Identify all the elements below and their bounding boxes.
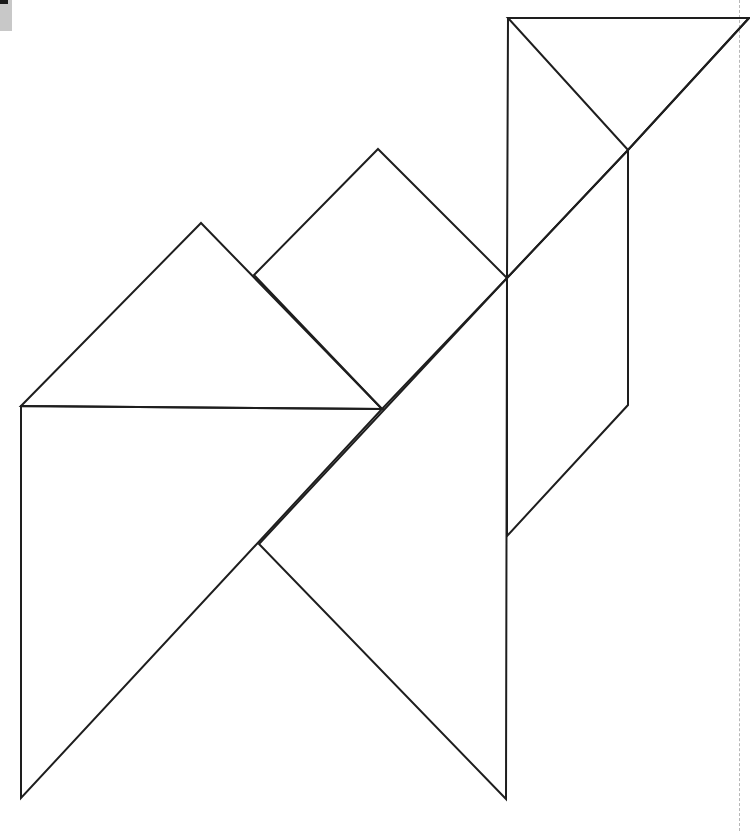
parallelogram-right (507, 150, 628, 536)
tangram-canvas (0, 0, 750, 831)
small-triangle-top (508, 18, 749, 150)
square-middle (254, 149, 507, 409)
large-triangle-left (21, 406, 382, 798)
medium-triangle-left (21, 223, 382, 409)
large-triangle-bottom (259, 278, 507, 799)
